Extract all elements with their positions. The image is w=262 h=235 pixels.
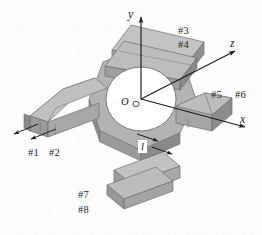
gauge-label-6: #6	[235, 90, 246, 101]
gauge-label-5: #5	[211, 90, 222, 101]
gauge-label-4: #4	[178, 40, 189, 51]
gauge-label-8: #8	[78, 205, 89, 216]
sensor-flexure-diagram	[0, 0, 262, 235]
beam-bottom	[107, 152, 180, 209]
origin-label: O	[121, 97, 129, 108]
gauge-label-7: #7	[78, 190, 89, 201]
gauge-label-3: #3	[178, 26, 189, 37]
z-axis-label: z	[230, 38, 234, 50]
y-axis-label: y	[128, 9, 133, 21]
dimension-length-label: l	[138, 140, 147, 153]
gauge-label-2: #2	[49, 148, 60, 159]
origin-marker	[133, 101, 139, 106]
gauge-label-1: #1	[28, 148, 39, 159]
beam-left	[24, 78, 107, 137]
x-axis-label: x	[240, 114, 245, 126]
